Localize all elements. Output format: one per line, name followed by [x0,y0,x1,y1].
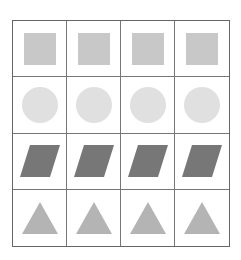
grid-cell [175,190,229,246]
circle-icon [126,83,170,127]
grid-cell [13,21,67,77]
grid-cell [175,21,229,77]
triangle-icon [126,196,170,240]
grid-cell [13,190,67,246]
grid-cell [13,134,67,190]
parallelogram-icon [18,139,62,183]
grid-cell [67,190,121,246]
parallelogram-icon [126,139,170,183]
square-icon [180,27,224,71]
square-icon [18,27,62,71]
grid-cell [175,134,229,190]
grid-cell [67,21,121,77]
triangle-icon [18,196,62,240]
grid-cell [121,190,175,246]
parallelogram-icon [180,139,224,183]
circle-icon [72,83,116,127]
triangle-icon [180,196,224,240]
triangle-icon [72,196,116,240]
circle-icon [18,83,62,127]
grid-cell [13,77,67,133]
parallelogram-icon [72,139,116,183]
square-icon [72,27,116,71]
circle-icon [180,83,224,127]
grid-cell [67,134,121,190]
square-icon [126,27,170,71]
shape-grid [12,20,230,247]
grid-cell [175,77,229,133]
grid-cell [121,21,175,77]
grid-cell [121,77,175,133]
grid-cell [67,77,121,133]
grid-cell [121,134,175,190]
